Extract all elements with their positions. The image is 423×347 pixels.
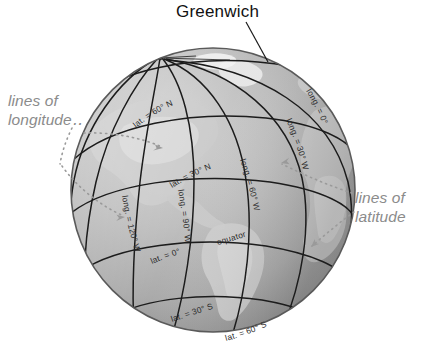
- globe-diagram: lat. = 60° N lat. = 30° N lat. = 0° lat.…: [0, 0, 423, 347]
- globe-illustration: lat. = 60° N lat. = 30° N lat. = 0° lat.…: [0, 0, 423, 347]
- lines-of-longitude-line1: lines of: [8, 91, 82, 110]
- lines-of-longitude-line2: longitude‥: [8, 110, 82, 129]
- greenwich-label: Greenwich: [176, 2, 259, 22]
- landmass-group: [71, 48, 363, 332]
- lines-of-latitude-callout: lines of latitude: [355, 188, 406, 226]
- lines-of-latitude-line2: latitude: [355, 207, 406, 226]
- lines-of-longitude-callout: lines of longitude‥: [8, 91, 82, 129]
- longitude-leader-stem: [60, 128, 72, 164]
- lines-of-latitude-line1: lines of: [355, 188, 406, 207]
